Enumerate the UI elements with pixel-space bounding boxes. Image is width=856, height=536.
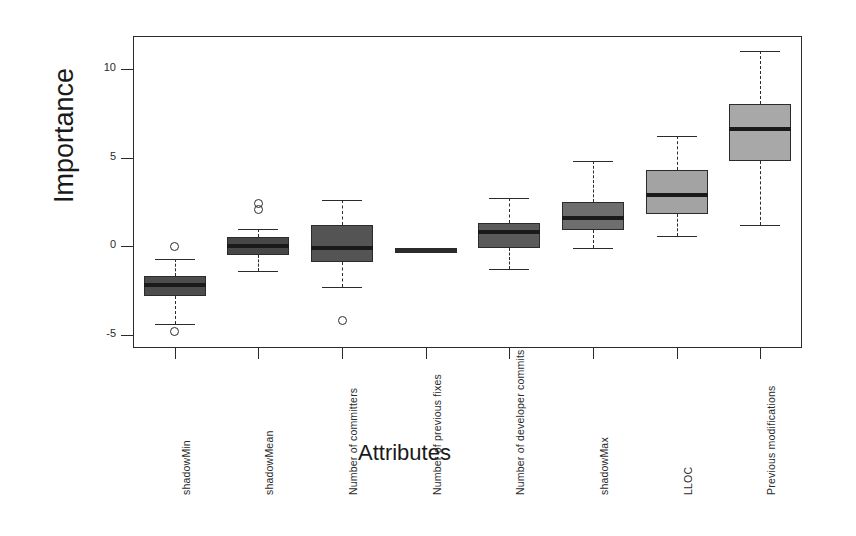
y-axis-tick-label: 0: [90, 238, 116, 250]
x-axis-tick-label: shadowMean: [263, 431, 275, 495]
y-axis-tick-mark: [121, 335, 133, 336]
plot-frame: [133, 36, 802, 348]
x-axis-tick-label: Number of developer commits: [514, 350, 526, 495]
y-axis-tick-mark: [121, 69, 133, 70]
y-axis-tick-label: 10: [90, 61, 116, 73]
x-axis-tick-mark: [258, 348, 259, 359]
x-axis-tick-mark: [175, 348, 176, 359]
y-axis-tick-mark: [121, 158, 133, 159]
x-axis-tick-label: shadowMin: [180, 440, 192, 495]
x-axis-tick-label: LLOC: [682, 467, 694, 495]
x-axis-tick-mark: [677, 348, 678, 359]
y-axis-tick-label: 5: [90, 150, 116, 162]
y-axis-tick-label: -5: [90, 327, 116, 339]
x-axis-tick-mark: [593, 348, 594, 359]
x-axis-tick-mark: [426, 348, 427, 359]
y-axis-tick-mark: [121, 246, 133, 247]
x-axis-tick-mark: [760, 348, 761, 359]
x-axis-tick-label: Previous modifications: [765, 386, 777, 495]
x-axis-tick-label: shadowMax: [598, 437, 610, 495]
x-axis-tick-label: Number of previous fixes: [431, 374, 443, 495]
y-axis-title: Importance: [49, 36, 80, 236]
x-axis-title: Attributes: [358, 440, 451, 466]
boxplot-figure: Importance 1050-5 shadowMinshadowMeanNum…: [0, 0, 856, 536]
x-axis-tick-mark: [342, 348, 343, 359]
x-axis-tick-mark: [509, 348, 510, 359]
